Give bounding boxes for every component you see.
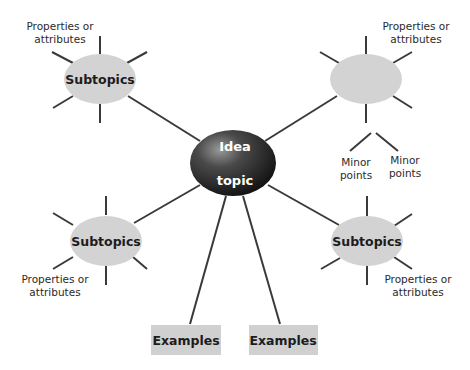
property-label-line2: attributes — [392, 286, 443, 298]
connector-top-right — [265, 96, 337, 141]
subtopic-bottom-left: Subtopics Properties or attributes — [21, 196, 147, 298]
ray — [53, 96, 73, 108]
property-label-line1: Properties or — [382, 20, 450, 32]
subtopic-ellipse — [330, 54, 402, 104]
ray — [393, 96, 412, 108]
minor-point-branch-right — [376, 133, 398, 151]
ray — [321, 258, 340, 269]
property-label-line1: Properties or — [21, 273, 89, 285]
minor-point-label-line1: Minor — [341, 156, 371, 168]
subtopic-top-left: Subtopics Properties or attributes — [26, 20, 147, 123]
minor-point-label-line1: Minor — [390, 154, 420, 166]
center-idea-node: Idea topic — [190, 130, 276, 196]
minor-point-label-line2: points — [340, 169, 372, 181]
idea-label-line1: Idea — [219, 139, 251, 154]
property-label-line1: Properties or — [384, 273, 452, 285]
subtopic-top-right: Properties or attributes — [320, 20, 450, 123]
property-label-line1: Properties or — [26, 20, 94, 32]
connector-example-right — [243, 196, 280, 324]
connector-bottom-right — [268, 185, 339, 225]
mind-map-diagram: Subtopics Properties or attributes Prope… — [0, 0, 470, 370]
subtopic-label: Subtopics — [332, 234, 402, 249]
ray — [127, 52, 147, 63]
ray — [53, 213, 73, 225]
example-label: Examples — [152, 333, 219, 348]
example-box-left: Examples — [151, 325, 221, 355]
example-box-right: Examples — [249, 325, 318, 355]
ray — [394, 257, 412, 269]
connector-example-left — [190, 196, 226, 324]
subtopic-bottom-right: Subtopics Properties or attributes — [321, 196, 452, 298]
example-label: Examples — [249, 333, 316, 348]
property-label-line2: attributes — [29, 286, 80, 298]
ray — [320, 52, 339, 63]
ray — [393, 52, 412, 63]
minor-point-label-line2: points — [389, 167, 421, 179]
minor-point-branch-left — [350, 133, 371, 151]
ray — [133, 257, 147, 269]
ray — [394, 214, 412, 226]
connector-top-left — [128, 96, 200, 141]
ray — [52, 52, 73, 63]
subtopic-label: Subtopics — [65, 72, 135, 87]
ray — [53, 257, 73, 269]
property-label-line2: attributes — [390, 33, 441, 45]
minor-points: Minor points Minor points — [340, 133, 421, 181]
idea-label-line2: topic — [217, 173, 254, 188]
subtopic-label: Subtopics — [71, 234, 141, 249]
property-label-line2: attributes — [34, 33, 85, 45]
connector-bottom-left — [134, 185, 200, 223]
